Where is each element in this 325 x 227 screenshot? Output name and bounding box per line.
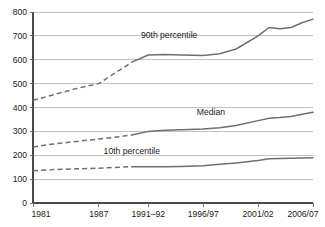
x-tick-label: 1991–92 bbox=[132, 209, 166, 219]
series-label-10th-percentile: 10th percentile bbox=[104, 146, 161, 156]
series-label-median: Median bbox=[197, 107, 225, 117]
y-tick-label: 0 bbox=[22, 198, 27, 208]
series-annotations-group: 90th percentileMedian10th percentile bbox=[104, 30, 226, 156]
y-tick-label: 100 bbox=[13, 174, 28, 184]
line-chart-figure: 0100200300400500600700800 198119871991–9… bbox=[0, 0, 325, 227]
series-line-solid-90th-percentile bbox=[132, 19, 313, 62]
x-tick-label: 1987 bbox=[89, 209, 108, 219]
x-tick-label: 1996/97 bbox=[188, 209, 219, 219]
series-lines-group bbox=[33, 19, 313, 171]
y-tick-label: 800 bbox=[13, 7, 28, 17]
y-axis-tick-labels: 0100200300400500600700800 bbox=[13, 7, 28, 208]
series-line-dashed-10th-percentile bbox=[33, 167, 132, 171]
series-line-dashed-90th-percentile bbox=[33, 62, 132, 100]
series-line-solid-10th-percentile bbox=[132, 158, 313, 167]
x-tick-label: 2001/02 bbox=[243, 209, 274, 219]
y-tick-label: 400 bbox=[13, 103, 28, 113]
x-axis-tick-labels: 198119871991–921996/972001/022006/07 bbox=[31, 209, 318, 219]
y-tick-label: 600 bbox=[13, 55, 28, 65]
y-tick-label: 200 bbox=[13, 150, 28, 160]
y-tick-label: 500 bbox=[13, 79, 28, 89]
x-tick-label: 1981 bbox=[31, 209, 50, 219]
y-tick-label: 300 bbox=[13, 126, 28, 136]
tickmarks-group bbox=[30, 12, 313, 207]
gridlines-group bbox=[33, 12, 313, 203]
chart-canvas: 0100200300400500600700800 198119871991–9… bbox=[0, 0, 325, 227]
series-label-90th-percentile: 90th percentile bbox=[141, 30, 198, 40]
x-tick-label: 2006/07 bbox=[287, 209, 318, 219]
y-tick-label: 700 bbox=[13, 31, 28, 41]
